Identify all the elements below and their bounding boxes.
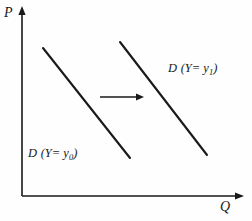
demand-curve-d0-label: D (Y= y0) <box>28 147 77 160</box>
d1-letter-d: D <box>168 61 177 75</box>
d1-equals: = <box>192 61 200 75</box>
demand-shift-diagram: P Q D (Y= y0) D (Y= y1) <box>0 0 252 221</box>
d0-subscript: 0 <box>69 152 73 162</box>
price-axis-arrowhead <box>18 6 25 15</box>
d0-letter-d: D <box>28 146 37 160</box>
d0-equals: = <box>52 146 60 160</box>
d1-var-y: Y <box>185 61 192 75</box>
demand-curve-d0 <box>43 48 130 158</box>
demand-curve-d1 <box>120 42 207 155</box>
diagram-canvas <box>0 0 252 221</box>
shift-arrow-head <box>136 93 144 100</box>
price-axis-label: P <box>4 6 13 20</box>
d1-subscript: 1 <box>209 67 213 77</box>
d0-close-paren: ) <box>73 146 77 160</box>
quantity-axis-label: Q <box>220 200 230 214</box>
quantity-axis-arrowhead <box>235 192 244 199</box>
demand-curve-d1-label: D (Y= y1) <box>168 62 217 75</box>
d1-close-paren: ) <box>213 61 217 75</box>
d0-var-y: Y <box>45 146 52 160</box>
